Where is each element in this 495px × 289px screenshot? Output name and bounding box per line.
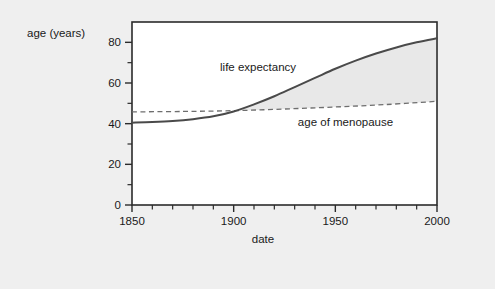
y-tick-label: 80 [108,36,121,48]
life-expectancy-label: life expectancy [220,61,296,73]
life-expectancy-vs-menopause-chart: 020406080 1850190019502000 age (years) d… [0,0,495,289]
x-tick-label: 2000 [424,215,450,227]
y-axis-tick-labels: 020406080 [108,36,121,211]
y-tick-label: 60 [108,77,121,89]
y-tick-label: 0 [115,199,121,211]
y-axis-title: age (years) [27,27,85,39]
x-axis-tick-labels: 1850190019502000 [119,215,450,227]
y-tick-label: 20 [108,158,121,170]
y-axis-ticks [125,42,132,205]
figure-container: 020406080 1850190019502000 age (years) d… [0,0,495,289]
x-axis-ticks [132,205,437,212]
y-tick-label: 40 [108,118,121,130]
x-axis-title: date [252,233,274,245]
x-tick-label: 1850 [119,215,145,227]
age-of-menopause-label: age of menopause [298,116,393,128]
x-tick-label: 1900 [221,215,247,227]
x-tick-label: 1950 [323,215,349,227]
